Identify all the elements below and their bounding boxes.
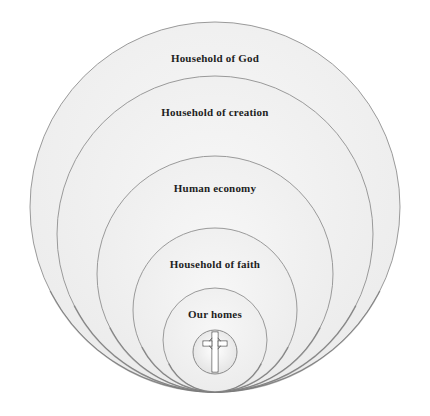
label-household-of-god: Household of God [171, 52, 259, 64]
label-household-of-faith: Household of faith [170, 258, 260, 270]
label-our-homes: Our homes [188, 308, 242, 320]
label-household-of-creation: Household of creation [161, 106, 268, 118]
nested-circles-diagram: Household of GodHousehold of creationHum… [0, 0, 430, 416]
cross-medallion [193, 330, 237, 374]
label-human-economy: Human economy [174, 182, 257, 194]
